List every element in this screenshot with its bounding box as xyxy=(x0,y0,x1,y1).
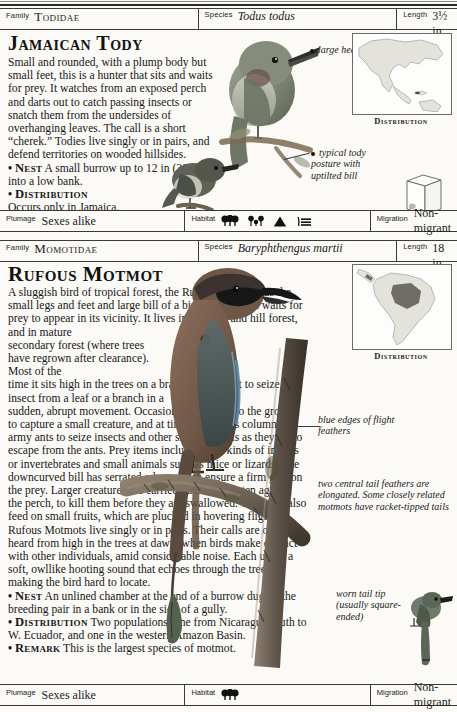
footer-cell-habitat: Habitat xyxy=(184,685,369,705)
entry-body: Jamaican Tody Small and rounded, with a … xyxy=(0,28,457,212)
entry-header: Family Todidae Species Todus todus Lengt… xyxy=(0,8,457,30)
bullet-glyph: • xyxy=(8,616,12,629)
header-key-species: Species xyxy=(205,242,233,251)
distribution-map-north-america xyxy=(352,33,452,115)
reeds-icon xyxy=(296,216,312,227)
page-top-rule-thin xyxy=(0,1,457,2)
header-key-length: Length xyxy=(403,10,427,19)
header-value-family: Todidae xyxy=(34,9,79,25)
caption-dot-icon xyxy=(310,49,314,53)
footer-key-migration: Migration xyxy=(377,214,408,223)
field-guide-page: Family Todidae Species Todus todus Lengt… xyxy=(0,0,457,712)
species-entry-rufous-motmot: Family Momotidae Species Baryphthengus m… xyxy=(0,240,457,706)
distribution-label: Distribution xyxy=(15,187,88,201)
caption-dot-icon xyxy=(311,152,315,156)
dense-trees-icon xyxy=(221,689,239,701)
entry-footer: Plumage Sexes alike Habitat xyxy=(0,210,457,232)
header-value-species: Baryphthengus martii xyxy=(238,241,343,256)
entry-body: Rufous Motmot A sluggish bird of tropica… xyxy=(0,260,457,686)
bullet-glyph: • xyxy=(8,162,12,175)
open-woodland-icon xyxy=(248,215,264,227)
footer-cell-migration: Migration Non-migrant xyxy=(370,685,457,705)
footer-cell-plumage: Plumage Sexes alike xyxy=(0,685,184,705)
header-cell-length: Length 18 in (46 cm) xyxy=(396,241,457,261)
distribution-map-south-america xyxy=(352,264,452,350)
page-title-jamaican-tody: Jamaican Tody xyxy=(8,32,143,55)
caption-tail-tip: worn tail tip (usually square-ended) xyxy=(336,588,404,622)
footer-value-migration: Non-migrant xyxy=(414,206,451,236)
species-entry-jamaican-tody: Family Todidae Species Todus todus Lengt… xyxy=(0,8,457,232)
distribution-map-label: Distribution xyxy=(352,116,450,126)
caption-tody-posture-text: typical tody posture with uptilted bill xyxy=(311,147,366,181)
bullet-glyph: • xyxy=(8,590,12,603)
header-cell-species: Species Todus todus xyxy=(198,9,397,29)
footer-key-habitat: Habitat xyxy=(191,688,215,697)
footer-cell-migration: Migration Non-migrant xyxy=(370,211,457,231)
header-key-species: Species xyxy=(205,10,233,19)
illustration-juvenile-tody xyxy=(160,154,240,216)
header-key-family: Family xyxy=(6,11,29,20)
footer-key-migration: Migration xyxy=(377,688,408,697)
header-key-length: Length xyxy=(403,242,427,251)
header-value-family: Momotidae xyxy=(34,241,97,257)
illustration-branch-lower xyxy=(250,338,320,668)
caption-tail-feathers-text: two central tail feathers are elongated.… xyxy=(318,478,449,512)
caption-tody-posture: typical tody posture with uptilted bill xyxy=(311,147,387,181)
header-value-species: Todus todus xyxy=(238,9,295,24)
footer-value-plumage: Sexes alike xyxy=(42,688,96,703)
illustration-tail-tip-detail xyxy=(398,588,454,672)
caption-tail-feathers: two central tail feathers are elongated.… xyxy=(318,478,452,512)
footer-key-habitat: Habitat xyxy=(191,214,215,223)
footer-value-migration: Non-migrant xyxy=(414,680,451,710)
caption-flight-feathers: blue edges of flight feathers xyxy=(318,414,410,437)
footer-cell-plumage: Plumage Sexes alike xyxy=(0,211,184,231)
caption-flight-feathers-text: blue edges of flight feathers xyxy=(318,414,394,436)
footer-key-plumage: Plumage xyxy=(6,688,36,697)
caption-tail-tip-text: worn tail tip (usually square-ended) xyxy=(336,588,401,622)
nest-label: Nest xyxy=(15,161,42,175)
footer-cell-habitat: Habitat xyxy=(184,211,369,231)
header-key-family: Family xyxy=(6,243,29,252)
mountain-icon xyxy=(273,216,287,227)
header-cell-family: Family Todidae xyxy=(0,9,198,29)
dense-trees-icon xyxy=(221,215,239,227)
entry-footer: Plumage Sexes alike Habitat Migration No… xyxy=(0,684,457,706)
bullet-glyph: • xyxy=(8,188,12,201)
habitat-icon-group xyxy=(221,689,239,701)
footer-key-plumage: Plumage xyxy=(6,214,36,223)
distribution-label: Distribution xyxy=(15,615,88,629)
nest-label: Nest xyxy=(15,589,42,603)
caption-leader-line xyxy=(298,426,320,427)
distribution-map-label: Distribution xyxy=(352,351,450,361)
bullet-glyph: • xyxy=(8,642,12,655)
description-intro: Small and rounded, with a plump body but… xyxy=(8,56,220,162)
habitat-icon-group xyxy=(221,215,312,227)
remark-label: Remark xyxy=(15,641,60,655)
header-cell-length: Length 3½ in (9 cm) xyxy=(396,9,457,29)
footer-value-plumage: Sexes alike xyxy=(42,214,96,229)
page-top-rule-thick xyxy=(0,4,457,6)
